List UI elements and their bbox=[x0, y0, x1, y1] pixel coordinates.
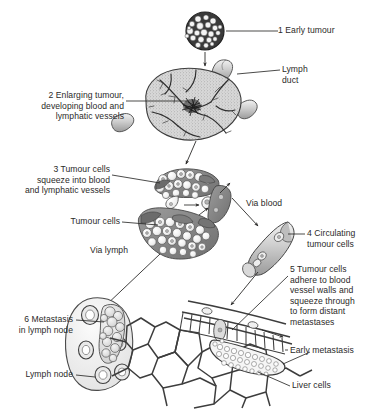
lymph-node bbox=[66, 298, 133, 391]
label-via-lymph: Via lymph bbox=[90, 245, 160, 256]
label-tumour-cells: Tumour cells bbox=[10, 216, 120, 227]
label-liver-cells: Liver cells bbox=[292, 380, 371, 391]
label-circulating: 4 Circulating tumour cells bbox=[307, 228, 371, 249]
label-lymph-node: Lymph node bbox=[0, 369, 73, 380]
early-tumour-cluster bbox=[185, 12, 224, 50]
label-early-metastasis: Early metastasis bbox=[290, 345, 371, 356]
label-early-tumour: 1 Early tumour bbox=[278, 25, 370, 36]
label-adhere: 5 Tumour cells adhere to blood vessel wa… bbox=[290, 264, 371, 328]
label-enlarging-tumour: 2 Enlarging tumour, developing blood and… bbox=[2, 90, 124, 122]
label-via-blood: Via blood bbox=[246, 198, 316, 209]
label-metastasis-node: 6 Metastasis in lymph node bbox=[0, 314, 73, 335]
label-squeeze-in: 3 Tumour cells squeeze into blood and ly… bbox=[0, 164, 110, 196]
label-lymph-duct: Lymph duct bbox=[282, 64, 368, 85]
